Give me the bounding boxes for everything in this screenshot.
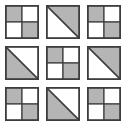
tile-r3c2-diagonal (46, 87, 80, 121)
tile-r2c1-diagonal (5, 46, 39, 80)
tile-r1c3-checkerboard (87, 5, 121, 39)
tile-r2c2-checkerboard (46, 46, 80, 80)
tile-r3c1-checkerboard (5, 87, 39, 121)
puzzle-grid (5, 5, 121, 121)
tile-r2c3-diagonal (87, 46, 121, 80)
tile-r1c2-diagonal (46, 5, 80, 39)
tile-r3c3-checkerboard (87, 87, 121, 121)
puzzle-page (0, 0, 124, 130)
tile-r1c1-checkerboard (5, 5, 39, 39)
